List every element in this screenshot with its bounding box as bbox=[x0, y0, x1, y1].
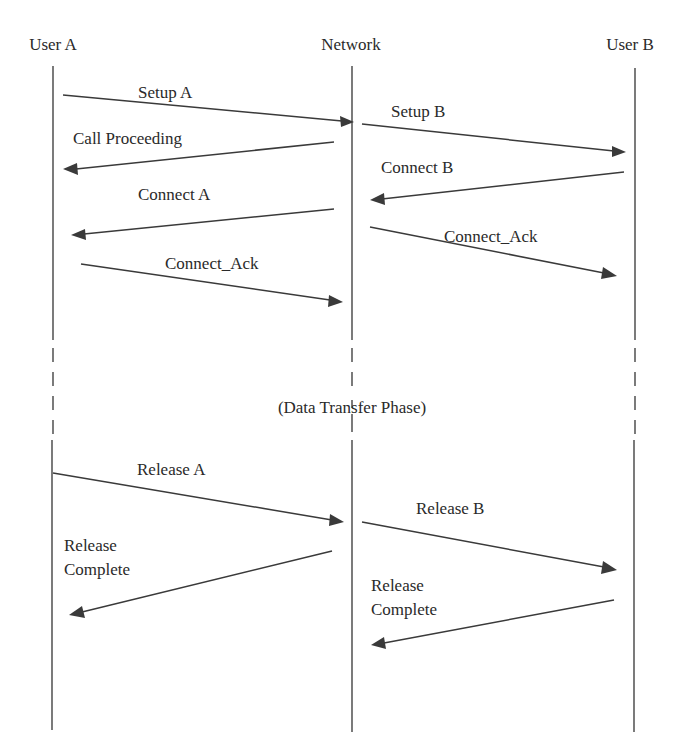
message-connect-b: Connect B bbox=[370, 158, 624, 205]
message-label-line-1: Release bbox=[64, 536, 117, 555]
message-label: Setup B bbox=[391, 102, 445, 121]
arrowhead-icon bbox=[371, 637, 386, 649]
message-label: Connect B bbox=[381, 158, 453, 177]
message-connect-ack-b: Connect_Ack bbox=[370, 227, 617, 279]
lifeline-user-b bbox=[634, 68, 635, 732]
message-label: Setup A bbox=[138, 83, 193, 102]
message-release-complete-b: Release Complete bbox=[371, 576, 614, 649]
message-label: Connect A bbox=[138, 185, 211, 204]
message-label: Release B bbox=[416, 499, 484, 518]
participant-network: Network bbox=[321, 35, 381, 54]
arrowhead-icon bbox=[612, 146, 626, 157]
message-label: Connect_Ack bbox=[165, 254, 259, 273]
arrowhead-icon bbox=[601, 267, 617, 279]
participant-user-b: User B bbox=[606, 35, 654, 54]
message-setup-a: Setup A bbox=[63, 83, 354, 127]
arrowhead-icon bbox=[329, 514, 344, 526]
message-release-b: Release B bbox=[362, 499, 617, 574]
message-label: Call Proceeding bbox=[73, 129, 183, 148]
arrowhead-icon bbox=[71, 229, 86, 240]
sequence-diagram: User A Network User B (Data Transfer Pha… bbox=[0, 0, 680, 751]
message-release-complete-a: Release Complete bbox=[64, 536, 332, 618]
message-label-line-2: Complete bbox=[64, 560, 130, 579]
message-connect-a: Connect A bbox=[71, 185, 334, 240]
message-label-line-1: Release bbox=[371, 576, 424, 595]
message-label: Connect_Ack bbox=[444, 227, 538, 246]
message-setup-b: Setup B bbox=[362, 102, 626, 157]
arrowhead-icon bbox=[63, 163, 78, 175]
message-connect-ack-a: Connect_Ack bbox=[81, 254, 343, 307]
lifeline-user-a bbox=[52, 66, 53, 730]
arrowhead-icon bbox=[69, 606, 85, 618]
arrowhead-icon bbox=[601, 561, 617, 574]
arrowhead-icon bbox=[328, 295, 343, 307]
arrowhead-icon bbox=[370, 193, 385, 205]
message-call-proceeding: Call Proceeding bbox=[63, 129, 334, 175]
message-label-line-2: Complete bbox=[371, 600, 437, 619]
participant-user-a: User A bbox=[29, 35, 77, 54]
message-release-a: Release A bbox=[53, 460, 344, 526]
message-label: Release A bbox=[137, 460, 206, 479]
phase-label: (Data Transfer Phase) bbox=[278, 398, 426, 417]
